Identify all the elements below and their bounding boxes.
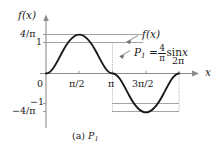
origin-label-zero: 0	[37, 79, 43, 89]
y-tick-label-4overpi-den: π	[29, 28, 35, 39]
equation-equals: =	[149, 46, 158, 58]
caption-prefix: (a)	[72, 130, 85, 141]
y-tick-label-4overpi: 4/π	[20, 29, 36, 39]
caption-subscript: 1	[95, 135, 99, 143]
x-axis-label: x	[205, 67, 211, 78]
y-tick-label-one: 1	[36, 37, 42, 47]
plot-svg	[0, 0, 221, 150]
annotation-equation: P1 =4πsinx	[134, 44, 188, 63]
x-tick-label-pi: π	[108, 79, 114, 89]
annotation-fx-label: f(x)	[142, 29, 160, 40]
x-tick-label-pi-over-2: π/2	[69, 79, 85, 89]
x-tick-label-3pi-over-2: 3π/2	[132, 79, 154, 89]
y-tick-label-negative-4overpi-den: π	[29, 105, 35, 116]
y-tick-label-negative-4overpi-num: −4	[12, 105, 26, 116]
y-axis-label: f(x)	[18, 10, 36, 21]
x-axis-arrowhead	[192, 71, 199, 77]
equation-variable: x	[182, 46, 188, 58]
y-tick-label-negative-4overpi: −4/π	[12, 106, 35, 116]
equation-trig-function: sin	[166, 46, 182, 58]
figure-caption: (a) P1	[72, 131, 99, 142]
leader-arrowhead-p1	[119, 55, 124, 59]
figure-container: f(x) x 4/π 1 0 −1 −4/π π/2 π 3π/2 2π f(x…	[0, 0, 221, 150]
equation-fraction-denominator: π	[158, 53, 166, 63]
equation-lhs-subscript: 1	[141, 51, 146, 60]
y-axis-arrowhead	[43, 15, 49, 22]
equation-fraction-numerator: 4	[158, 44, 166, 53]
equation-fraction: 4π	[158, 44, 166, 63]
